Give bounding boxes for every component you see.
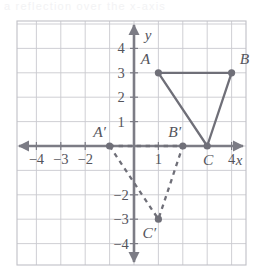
vertex-dot-A-prime — [106, 142, 113, 149]
point-label-A: A — [140, 50, 151, 67]
page-fragment-text: a reflection over the x-axis — [4, 0, 259, 16]
vertex-dot-C — [204, 142, 211, 149]
y-tick-label: 2 — [117, 89, 124, 105]
y-tick-label: 4 — [117, 40, 125, 56]
x-tick-label: −3 — [53, 151, 68, 167]
triangle-ABC-prime — [110, 146, 183, 219]
vertex-dot-B-prime — [179, 142, 186, 149]
coordinate-plane-figure: a reflection over the x-axis −4−3−214432… — [0, 0, 263, 277]
y-tick-label: −4 — [113, 236, 129, 252]
point-label-C-prime: C′ — [143, 224, 157, 241]
y-axis-arrow-up — [129, 24, 140, 35]
grid-border — [17, 21, 246, 265]
vertex-dot-A — [155, 69, 162, 76]
vertex-dot-B — [228, 69, 235, 76]
graph-canvas: −4−3−2144321−2−3−4yxABCA′B′C′ — [0, 0, 263, 277]
x-axis-arrow-right — [233, 141, 244, 152]
x-tick-label: 1 — [155, 151, 162, 167]
point-label-C: C — [203, 151, 214, 168]
y-tick-label: 1 — [117, 114, 124, 130]
y-tick-label: −3 — [113, 211, 128, 227]
y-axis-label: y — [143, 27, 152, 43]
point-label-A-prime: A′ — [92, 123, 106, 140]
point-label-B-prime: B′ — [168, 123, 181, 140]
y-tick-label: −2 — [113, 187, 128, 203]
x-axis-label: x — [235, 152, 243, 168]
grid-lines — [17, 21, 246, 265]
x-axis-arrow-left — [18, 141, 29, 152]
point-label-B: B — [240, 50, 250, 67]
x-tick-label: −2 — [77, 151, 92, 167]
y-tick-label: 3 — [117, 65, 124, 81]
vertex-dot-C-prime — [155, 216, 162, 223]
x-tick-label: −4 — [29, 151, 45, 167]
y-axis-arrow-down — [129, 252, 140, 263]
